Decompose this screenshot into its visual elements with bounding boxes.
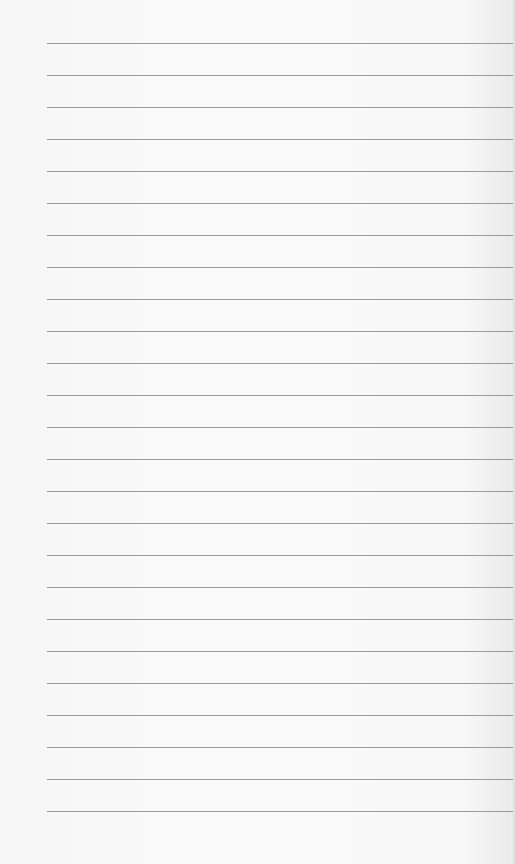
ruled-line — [47, 651, 513, 652]
ruled-line — [47, 459, 513, 460]
ruled-line — [47, 363, 513, 364]
ruled-line — [47, 107, 513, 108]
ruled-line — [47, 139, 513, 140]
ruled-line — [47, 811, 513, 812]
ruled-line — [47, 171, 513, 172]
ruled-line — [47, 715, 513, 716]
ruled-line — [47, 747, 513, 748]
ruled-line — [47, 491, 513, 492]
ruled-line — [47, 779, 513, 780]
ruled-line — [47, 555, 513, 556]
ruled-line — [47, 619, 513, 620]
ruled-line — [47, 331, 513, 332]
ruled-line — [47, 203, 513, 204]
ruled-line — [47, 267, 513, 268]
ruled-line — [47, 43, 513, 44]
ruled-line — [47, 523, 513, 524]
ruled-line — [47, 395, 513, 396]
ruled-line — [47, 427, 513, 428]
ruled-line — [47, 299, 513, 300]
lined-paper-sheet — [0, 0, 515, 864]
ruled-line — [47, 235, 513, 236]
ruled-line — [47, 587, 513, 588]
ruled-line — [47, 75, 513, 76]
paper-right-edge — [511, 0, 515, 864]
ruled-line — [47, 683, 513, 684]
